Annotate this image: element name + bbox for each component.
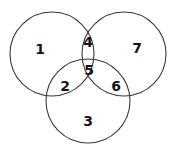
region-label-right-bottom: 6	[111, 79, 121, 93]
region-label-all-three: 5	[84, 63, 94, 77]
region-label-left-only: 1	[35, 42, 45, 56]
region-label-bottom-only: 3	[83, 114, 93, 128]
region-label-left-bottom: 2	[60, 79, 70, 93]
venn-diagram: 1 4 7 5 2 6 3	[0, 0, 176, 153]
region-label-left-right: 4	[83, 35, 93, 49]
region-label-right-only: 7	[132, 41, 142, 55]
left-circle	[10, 12, 94, 96]
right-circle	[82, 12, 166, 96]
